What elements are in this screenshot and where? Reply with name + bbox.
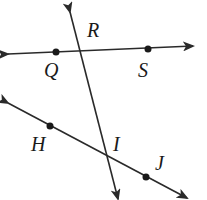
label-s: S	[138, 60, 148, 80]
geometry-diagram: R Q S H I J	[0, 0, 207, 200]
line-qs	[8, 46, 193, 54]
label-h: H	[31, 134, 45, 154]
label-q: Q	[44, 60, 58, 80]
point-h-dot	[47, 123, 54, 130]
point-s-dot	[145, 46, 152, 53]
point-q-dot	[53, 49, 60, 56]
point-j-dot	[143, 174, 150, 181]
lines-canvas	[0, 0, 207, 200]
label-i: I	[113, 134, 120, 154]
label-r: R	[87, 20, 99, 40]
label-j: J	[155, 153, 164, 173]
